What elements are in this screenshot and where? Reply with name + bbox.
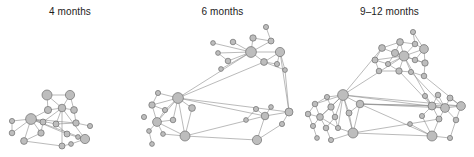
network-node (412, 57, 418, 63)
network-node (173, 93, 184, 104)
network-node (211, 41, 216, 46)
network-node (274, 61, 279, 66)
edge-layer (149, 27, 289, 144)
network-node (428, 102, 436, 110)
network-node (53, 121, 59, 127)
network-edge (178, 52, 251, 98)
network-node (317, 114, 324, 121)
network-node (396, 68, 402, 74)
network-graph-4-months (0, 0, 140, 157)
network-figure: 4 months 6 months 9–12 months (0, 0, 474, 157)
network-node (422, 93, 427, 98)
network-edge (353, 119, 439, 133)
network-edge (185, 136, 257, 140)
network-node (412, 41, 418, 47)
network-node (315, 136, 320, 141)
network-node (141, 114, 146, 119)
network-node (397, 39, 404, 46)
network-node (26, 114, 37, 125)
network-node (305, 111, 311, 117)
network-node (435, 92, 441, 98)
network-edge (24, 141, 62, 146)
network-node (155, 90, 160, 95)
network-node (356, 100, 364, 108)
network-node (149, 102, 155, 108)
network-node (189, 105, 196, 112)
node-layer (9, 90, 92, 149)
network-node (283, 68, 288, 73)
network-node (225, 58, 231, 64)
network-node (21, 138, 28, 145)
network-node (216, 51, 221, 56)
network-graph-6-months (140, 0, 305, 157)
network-node (38, 130, 44, 136)
network-node (279, 121, 284, 126)
network-node (246, 47, 257, 58)
panel-9-12-months: 9–12 months (305, 0, 474, 157)
network-node (244, 118, 249, 123)
network-node (73, 120, 79, 126)
network-node (419, 113, 424, 118)
network-node (410, 29, 415, 34)
network-node (408, 122, 413, 127)
network-node (379, 45, 386, 52)
network-node (328, 137, 333, 142)
node-layer (305, 29, 465, 142)
network-node (59, 143, 65, 149)
network-node (263, 24, 268, 29)
network-node (275, 47, 284, 56)
network-node (153, 118, 162, 127)
panel-6-months: 6 months (140, 0, 305, 157)
network-node (441, 104, 450, 113)
network-edge (185, 116, 265, 136)
network-node (180, 131, 190, 141)
network-node (372, 57, 378, 63)
network-node (408, 69, 413, 74)
network-node (310, 123, 315, 128)
network-edge (353, 133, 432, 136)
network-node (285, 108, 293, 116)
network-edge (178, 98, 185, 136)
network-node (44, 106, 51, 113)
network-node (65, 90, 74, 99)
network-node (427, 131, 437, 141)
network-node (421, 73, 427, 79)
network-node (391, 49, 398, 56)
network-node (261, 112, 269, 120)
network-node (436, 116, 442, 122)
network-node (252, 135, 261, 144)
network-node (420, 45, 429, 54)
network-node (338, 90, 349, 101)
network-node (9, 118, 14, 123)
network-node (422, 60, 428, 66)
network-node (261, 59, 268, 66)
network-graph-9-12-months (305, 0, 474, 157)
network-node (219, 67, 224, 72)
network-node (324, 94, 329, 99)
network-node (150, 142, 155, 147)
network-node (80, 134, 89, 143)
network-node (457, 102, 466, 111)
network-node (58, 104, 66, 112)
network-node (312, 101, 318, 107)
network-node (399, 51, 409, 61)
network-node (385, 61, 390, 66)
network-node (269, 105, 274, 110)
network-edge (360, 104, 432, 136)
network-node (328, 104, 334, 110)
network-node (71, 107, 78, 114)
network-node (162, 107, 167, 112)
network-node (87, 123, 92, 128)
network-node (42, 90, 52, 100)
network-node (348, 128, 358, 138)
network-edge (280, 52, 289, 112)
network-node (453, 117, 459, 123)
network-node (69, 142, 74, 147)
network-node (230, 39, 236, 45)
network-node (64, 131, 70, 137)
network-node (447, 135, 452, 140)
network-node (170, 117, 176, 123)
network-node (161, 132, 166, 137)
network-node (76, 135, 81, 140)
network-node (335, 125, 340, 130)
